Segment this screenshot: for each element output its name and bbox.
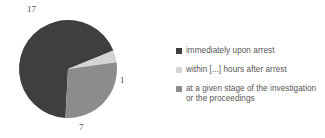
pie-plot-area: 17 1 7 [0, 0, 163, 138]
legend-item-label: at a given stage of the investigation or… [186, 84, 325, 104]
pie-data-label-7: 7 [79, 122, 84, 132]
chart-legend: immediately upon arrest within [...] hou… [176, 46, 325, 113]
pie-chart-figure: 17 1 7 immediately upon arrest within [.… [0, 0, 325, 138]
pie-data-label-1: 1 [120, 75, 125, 85]
legend-swatch-icon [176, 48, 182, 54]
pie-data-label-17: 17 [27, 4, 36, 14]
pie-svg [0, 0, 163, 138]
legend-item-label: immediately upon arrest [186, 46, 275, 56]
legend-swatch-icon [176, 86, 182, 92]
legend-item-at-a-given-stage[interactable]: at a given stage of the investigation or… [176, 84, 325, 104]
legend-item-label: within [...] hours after arrest [186, 65, 287, 75]
legend-swatch-icon [176, 67, 182, 73]
legend-item-within-hours-after-arrest[interactable]: within [...] hours after arrest [176, 65, 325, 75]
legend-item-immediately-upon-arrest[interactable]: immediately upon arrest [176, 46, 325, 56]
pie-slice-at-a-given-stage[interactable] [65, 62, 117, 118]
